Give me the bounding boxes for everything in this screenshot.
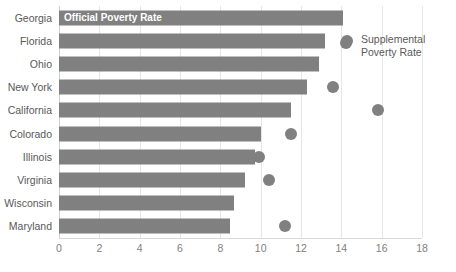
official-poverty-rate-bar: [59, 126, 261, 141]
category-label: Wisconsin: [4, 198, 52, 209]
x-axis-tick-label: 0: [56, 243, 62, 254]
poverty-rate-chart: GeorgiaOfficial Poverty RateFloridaOhioN…: [0, 0, 456, 272]
x-axis-tick-labels: 024681012141618: [0, 243, 456, 263]
legend-label-line1: Supplemental: [361, 33, 451, 46]
official-poverty-rate-bar: Official Poverty Rate: [59, 10, 343, 25]
chart-row: Virginia: [0, 168, 456, 191]
supplemental-poverty-rate-dot: [263, 174, 275, 186]
category-label: Illinois: [23, 152, 52, 163]
x-axis-tick-label: 18: [416, 243, 428, 254]
official-poverty-rate-bar: [59, 56, 319, 71]
x-axis-tick-label: 12: [295, 243, 307, 254]
chart-row: Maryland: [0, 215, 456, 238]
category-label: Maryland: [9, 221, 52, 232]
x-axis-tick-label: 2: [96, 243, 102, 254]
official-poverty-rate-bar: [59, 172, 245, 187]
chart-row: Wisconsin: [0, 192, 456, 215]
official-poverty-rate-bar: [59, 103, 291, 118]
legend-label-line2: Poverty Rate: [361, 46, 451, 59]
supplemental-poverty-rate-dot: [372, 104, 384, 116]
category-label: New York: [8, 82, 52, 93]
chart-row: Colorado: [0, 122, 456, 145]
supplemental-poverty-rate-dot: [305, 58, 317, 70]
x-axis-tick-label: 8: [217, 243, 223, 254]
x-axis-line: [59, 238, 422, 239]
supplemental-poverty-rate-dot: [285, 128, 297, 140]
x-axis-tick-label: 10: [255, 243, 267, 254]
category-label: Virginia: [17, 175, 52, 186]
official-poverty-rate-bar: [59, 149, 255, 164]
chart-row: New York: [0, 76, 456, 99]
legend-label: Supplemental Poverty Rate: [361, 33, 451, 58]
x-axis-tick-label: 6: [177, 243, 183, 254]
official-poverty-rate-bar: [59, 219, 230, 234]
x-axis-tick-label: 16: [376, 243, 388, 254]
supplemental-poverty-rate-dot: [305, 12, 317, 24]
official-poverty-rate-bar: [59, 80, 307, 95]
category-label: Ohio: [30, 59, 52, 70]
supplemental-poverty-rate-dot: [279, 220, 291, 232]
chart-row: California: [0, 99, 456, 122]
category-label: Georgia: [15, 12, 52, 23]
official-poverty-rate-bar: [59, 33, 325, 48]
legend-circle-marker-icon: [340, 37, 352, 49]
official-poverty-rate-series-label: Official Poverty Rate: [64, 13, 162, 23]
x-axis-tick-label: 4: [137, 243, 143, 254]
x-axis-tick-label: 14: [335, 243, 347, 254]
supplemental-poverty-rate-dot: [327, 81, 339, 93]
official-poverty-rate-bar: [59, 196, 234, 211]
category-label: Colorado: [9, 128, 52, 139]
chart-row: Illinois: [0, 145, 456, 168]
category-label: Florida: [20, 36, 52, 47]
category-label: California: [8, 105, 52, 116]
supplemental-poverty-rate-dot: [253, 151, 265, 163]
chart-row: GeorgiaOfficial Poverty Rate: [0, 6, 456, 29]
